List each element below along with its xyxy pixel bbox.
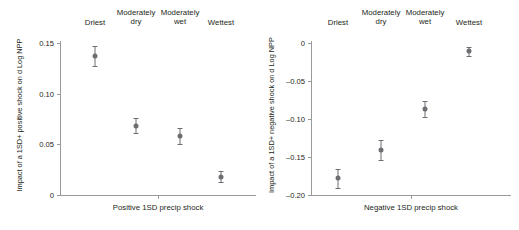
data-point-left-driest[interactable] [93,54,98,59]
error-cap-bottom-right-wettest [467,56,472,57]
data-point-right-moderately-wet[interactable] [423,107,428,112]
error-cap-top-right-moderately-wet [423,101,428,102]
data-point-left-wettest[interactable] [219,175,224,180]
y-tick-right-4 [308,195,311,196]
panel-positive-shock: Impact of a 1SD+ positive shock on d Log… [0,0,259,230]
x-axis-title-negative: Negative 1SD precip shock [364,203,458,212]
error-cap-top-left-moderately-wet [178,128,183,129]
error-cap-bottom-right-driest [336,188,341,189]
error-cap-bottom-left-wettest [219,182,224,183]
y-tick-left-0 [57,43,60,44]
data-point-left-moderately-wet[interactable] [178,134,183,139]
y-tick-left-2 [57,144,60,145]
y-tick-label-left-1: 0.10 [22,90,54,99]
x-tick-right-center [411,196,412,199]
x-axis-title-positive: Positive 1SD precip shock [113,203,204,212]
y-tick-label-right-4: –0.20 [267,191,305,200]
y-axis-line-right [311,41,312,196]
category-label-wettest-left: Wettest [208,18,234,27]
category-label-moderately-dry-right: Moderately dry [362,8,401,27]
category-label-moderately-dry-left: Moderately dry [117,8,156,27]
y-tick-right-0 [308,43,311,44]
y-tick-label-left-3: 0 [22,191,54,200]
error-cap-bottom-left-driest [93,66,98,67]
panel-negative-shock: Impact of a 1SD+ negative shock on d Log… [259,0,518,230]
y-tick-label-right-1: –0.05 [267,77,305,86]
category-label-driest-right: Driest [328,18,348,27]
y-tick-label-right-0: 0 [267,39,305,48]
data-point-left-moderately-dry[interactable] [134,124,139,129]
error-cap-bottom-right-moderately-dry [379,160,384,161]
category-label-wettest-right: Wettest [456,18,482,27]
y-tick-right-1 [308,81,311,82]
error-cap-top-right-moderately-dry [379,140,384,141]
y-tick-right-3 [308,157,311,158]
error-cap-top-left-driest [93,46,98,47]
data-point-right-wettest[interactable] [467,49,472,54]
error-cap-bottom-left-moderately-dry [134,133,139,134]
y-tick-left-3 [57,195,60,196]
y-axis-line-left [60,41,61,196]
error-cap-top-left-moderately-dry [134,118,139,119]
data-point-right-driest[interactable] [336,176,341,181]
y-tick-label-right-2: –0.10 [267,115,305,124]
category-label-moderately-wet-right: Moderately wet [406,8,445,27]
data-point-right-moderately-dry[interactable] [379,148,384,153]
y-tick-label-right-3: –0.15 [267,153,305,162]
x-tick-left-center [158,196,159,199]
error-cap-bottom-left-moderately-wet [178,144,183,145]
error-cap-top-right-driest [336,169,341,170]
category-label-driest-left: Driest [85,18,105,27]
y-tick-right-2 [308,119,311,120]
error-cap-top-left-wettest [219,171,224,172]
category-label-moderately-wet-left: Moderately wet [161,8,200,27]
error-cap-bottom-right-moderately-wet [423,117,428,118]
y-tick-label-left-2: 0.05 [22,140,54,149]
y-tick-label-left-0: 0.15 [22,39,54,48]
y-tick-left-1 [57,94,60,95]
figure-container: Impact of a 1SD+ positive shock on d Log… [0,0,519,230]
